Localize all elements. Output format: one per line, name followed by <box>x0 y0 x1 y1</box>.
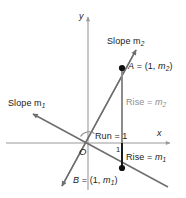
label-slope-m1: Slope m1 <box>8 99 45 108</box>
label-point-b: B = (1, m1) <box>73 176 118 185</box>
point-b-marker <box>119 165 125 171</box>
label-origin: O <box>79 147 87 157</box>
label-slope-m2: Slope m2 <box>107 37 144 46</box>
label-run: Run = 1 <box>95 132 127 141</box>
label-x-axis: x <box>157 129 162 138</box>
label-rise-m1: Rise = m1 <box>126 153 166 162</box>
slope-diagram-figure: Slope m2 Slope m1 A = (1, m2) B = (1, m1… <box>0 0 186 198</box>
label-tick-one: 1 <box>116 146 120 154</box>
point-a-marker <box>119 65 125 71</box>
label-rise-m2: Rise = m2 <box>126 98 166 107</box>
label-point-a: A = (1, m2) <box>128 62 173 71</box>
label-y-axis: y <box>79 12 84 21</box>
line-slope-m2-arrow-tail <box>62 50 136 186</box>
